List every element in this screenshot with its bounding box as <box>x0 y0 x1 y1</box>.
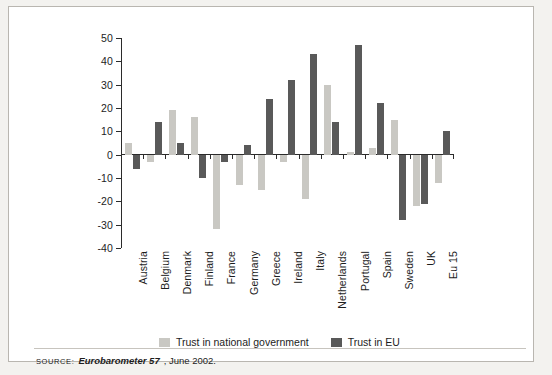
figure-page: 50403020100-10-20-30-40 AustriaBelgiumDe… <box>0 0 552 375</box>
y-axis-tick <box>116 248 121 249</box>
y-axis-tick <box>116 61 121 62</box>
bar <box>169 110 176 154</box>
bar <box>191 117 198 154</box>
bar <box>244 145 251 154</box>
y-axis-label: 0 <box>107 149 113 161</box>
x-axis-category-label: Eu 15 <box>447 251 459 279</box>
source-rest: , June 2002. <box>164 355 216 366</box>
bar <box>258 155 265 190</box>
source-note: SOURCE: Eurobarometer 57 , June 2002. <box>36 355 216 366</box>
bar <box>310 54 317 154</box>
x-axis-category-label: Netherlands <box>336 251 348 309</box>
x-axis-tick <box>143 155 144 159</box>
y-axis-tick <box>116 178 121 179</box>
y-axis-line <box>121 38 122 248</box>
y-axis-tick <box>116 108 121 109</box>
figure-frame: 50403020100-10-20-30-40 AustriaBelgiumDe… <box>8 6 534 362</box>
x-axis-tick <box>432 155 433 159</box>
y-axis-tick <box>116 85 121 86</box>
x-axis-category-label: Denmark <box>181 251 193 294</box>
x-axis-category-label: Italy <box>314 251 326 271</box>
bar <box>147 155 154 162</box>
x-axis-tick <box>387 155 388 159</box>
bar <box>399 155 406 220</box>
y-axis-label: 40 <box>101 55 113 67</box>
y-axis-label: -10 <box>98 172 113 184</box>
bar <box>266 99 273 155</box>
bar <box>421 155 428 204</box>
x-axis-category-label: Finland <box>203 251 215 286</box>
bar <box>177 143 184 155</box>
bar <box>355 45 362 155</box>
x-axis-category-label: Sweden <box>403 251 415 290</box>
bar <box>213 155 220 230</box>
x-axis-category-label: France <box>225 251 237 284</box>
legend-swatch-icon-light <box>159 338 170 347</box>
chart-plot-area: 50403020100-10-20-30-40 AustriaBelgiumDe… <box>121 38 454 248</box>
bar <box>347 152 354 154</box>
y-axis-label: -20 <box>98 195 113 207</box>
bar <box>221 155 228 162</box>
y-axis-label: -30 <box>98 219 113 231</box>
bar <box>324 85 331 155</box>
bar <box>413 155 420 206</box>
x-axis-tick <box>188 155 189 159</box>
y-axis-tick <box>116 201 121 202</box>
bar <box>377 103 384 154</box>
x-axis-tick <box>165 155 166 159</box>
x-axis-category-label: Belgium <box>159 251 171 290</box>
x-axis-tick <box>232 155 233 159</box>
x-axis-category-label: Austria <box>137 251 149 284</box>
bar <box>133 155 140 169</box>
y-axis-label: 20 <box>101 102 113 114</box>
x-axis-tick <box>254 155 255 159</box>
y-axis-tick <box>116 38 121 39</box>
x-axis-category-label: Greece <box>270 251 282 286</box>
bar <box>288 80 295 155</box>
x-axis-tick <box>410 155 411 159</box>
x-axis-category-label: Portugal <box>359 251 371 291</box>
x-axis-category-label: UK <box>425 251 437 266</box>
x-axis-tick <box>121 155 122 159</box>
x-axis-category-label: Spain <box>381 251 393 278</box>
legend-label-national-government: Trust in national government <box>176 336 309 348</box>
chart-legend: Trust in national government Trust in EU <box>159 336 400 348</box>
bar <box>302 155 309 199</box>
bar <box>125 143 132 155</box>
legend-item-national-government: Trust in national government <box>159 336 309 348</box>
bar <box>443 131 450 154</box>
x-axis-tick <box>276 155 277 159</box>
source-publication: Eurobarometer 57 <box>78 355 159 366</box>
source-label: SOURCE: <box>36 357 74 366</box>
x-axis-category-label: Ireland <box>292 251 304 284</box>
legend-item-eu: Trust in EU <box>331 336 400 348</box>
bar <box>369 148 376 155</box>
legend-label-eu: Trust in EU <box>348 336 400 348</box>
x-axis-tick <box>299 155 300 159</box>
y-axis-label: -40 <box>98 242 113 254</box>
x-axis-tick <box>365 155 366 159</box>
bar <box>199 155 206 178</box>
y-axis-tick <box>116 131 121 132</box>
bar <box>391 120 398 155</box>
y-axis-label: 30 <box>101 79 113 91</box>
bar <box>435 155 442 183</box>
x-axis-tick <box>453 155 454 159</box>
legend-swatch-icon-dark <box>331 338 342 347</box>
y-axis-label: 10 <box>101 125 113 137</box>
x-axis-tick <box>210 155 211 159</box>
bar <box>155 122 162 155</box>
bar <box>280 155 287 162</box>
y-axis-tick <box>116 225 121 226</box>
x-axis-category-label: Germany <box>248 251 260 295</box>
x-axis-tick <box>321 155 322 159</box>
y-axis-label: 50 <box>101 32 113 44</box>
bar <box>332 122 339 155</box>
bar <box>236 155 243 185</box>
source-divider <box>34 348 526 349</box>
x-axis-tick <box>343 155 344 159</box>
